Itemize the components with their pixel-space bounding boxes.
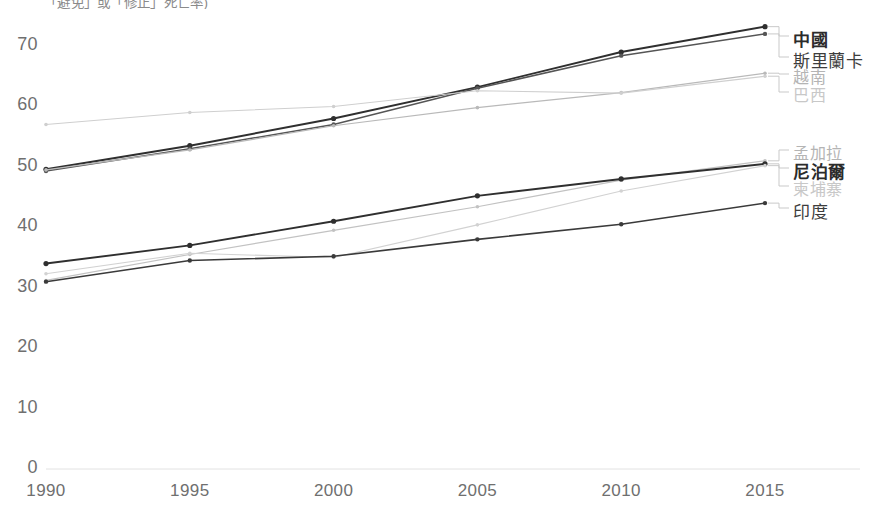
series-marker: [763, 74, 767, 78]
series-marker: [619, 176, 624, 181]
legend-leader-line: [768, 166, 789, 186]
x-tick-label: 2005: [437, 481, 517, 501]
series-marker: [188, 258, 192, 262]
series-marker: [762, 24, 767, 29]
x-tick-label: 1990: [6, 481, 86, 501]
series-marker: [187, 243, 192, 248]
series-marker: [43, 261, 48, 266]
series-marker: [332, 124, 336, 128]
y-tick-label: 50: [4, 155, 38, 176]
legend-label-top-3[interactable]: 巴西: [793, 82, 826, 106]
series-marker: [476, 223, 480, 227]
series-marker: [476, 89, 480, 93]
series-marker: [475, 237, 479, 241]
y-tick-label: 0: [4, 457, 38, 478]
y-tick-label: 10: [4, 397, 38, 418]
series-marker: [619, 53, 623, 57]
y-tick-label: 40: [4, 215, 38, 236]
series-marker: [619, 222, 623, 226]
legend-label-bottom-3[interactable]: 印度: [793, 198, 828, 223]
series-marker: [331, 254, 335, 258]
series-marker: [619, 91, 623, 95]
series-line: [46, 27, 765, 170]
series-marker: [331, 219, 336, 224]
series-marker: [619, 189, 623, 193]
x-tick-label: 2015: [725, 481, 805, 501]
series-marker: [188, 148, 192, 152]
series-marker: [476, 106, 480, 110]
y-tick-label: 60: [4, 94, 38, 115]
y-tick-label: 70: [4, 34, 38, 55]
series-marker: [763, 201, 767, 205]
legend-leader-lines: [768, 27, 789, 208]
series-marker: [331, 116, 336, 121]
legend-leader-line: [768, 73, 789, 74]
chart-container: 「避免」或「修正」死亡率) 010203040506070 1990199520…: [0, 0, 875, 524]
line-chart-plot: [0, 0, 875, 524]
legend-label-bottom-2[interactable]: 柬埔寨: [793, 176, 843, 200]
legend-leader-line: [768, 76, 789, 92]
y-tick-label: 30: [4, 276, 38, 297]
series-marker: [332, 229, 336, 233]
series-marker: [763, 164, 767, 168]
x-tick-label: 2000: [294, 481, 374, 501]
series-line: [46, 73, 765, 170]
series-marker: [475, 193, 480, 198]
series-marker: [188, 111, 192, 115]
series-marker: [476, 205, 480, 209]
series-layer: [43, 24, 767, 284]
series-marker: [44, 279, 48, 283]
series-marker: [188, 251, 192, 255]
series-line: [46, 203, 765, 282]
y-tick-label: 20: [4, 336, 38, 357]
x-tick-label: 2010: [581, 481, 661, 501]
series-marker: [44, 272, 48, 276]
series-marker: [763, 32, 767, 36]
legend-leader-line: [768, 203, 789, 208]
legend-leader-line: [768, 150, 789, 161]
x-tick-label: 1995: [150, 481, 230, 501]
series-marker: [44, 168, 48, 172]
series-marker: [44, 123, 48, 127]
legend-leader-line: [768, 34, 789, 57]
series-marker: [332, 105, 336, 109]
series-line: [46, 161, 765, 281]
